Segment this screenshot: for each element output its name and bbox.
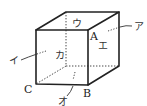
face-label-o: オ (58, 96, 68, 106)
hidden-bottom-left-edge (36, 66, 66, 84)
vertex-label-a: A (89, 30, 99, 43)
face-label-a: ア (134, 21, 144, 32)
face-label-e: エ (98, 40, 108, 51)
face-label-ka: カ (55, 50, 65, 61)
leader-i-dotted (37, 51, 46, 54)
leader-o (67, 86, 73, 96)
face-label-i: イ (9, 55, 19, 66)
leader-a (120, 26, 132, 27)
leader-i (21, 54, 37, 60)
vertex-label-c: C (24, 83, 32, 96)
leader-o-dotted (73, 72, 75, 80)
face-label-u: ウ (72, 18, 82, 29)
cube-diagram: ウ カ エ ア イ オ A B C (0, 0, 147, 106)
vertex-label-b: B (83, 87, 91, 100)
